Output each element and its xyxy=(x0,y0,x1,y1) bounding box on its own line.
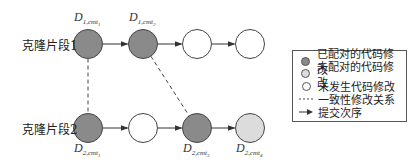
row-label-clone-2: 克隆片段2 xyxy=(22,120,78,137)
commit-order-arrows xyxy=(103,44,235,128)
node-label: D1,cmt1 xyxy=(74,10,101,28)
node-label: D1,cmt2 xyxy=(129,10,156,28)
commit-nodes xyxy=(74,30,265,143)
node-label: D2,cmt3 xyxy=(183,141,210,159)
consistency-link xyxy=(151,56,189,116)
paired-dot-icon xyxy=(301,57,310,66)
dashed-line-icon xyxy=(299,93,313,105)
node-label: D2,cmt4 xyxy=(236,141,263,159)
legend: 已配对的代码修改 未配对的代码修改 未发生代码修改 一致性修改关系 提交次序 xyxy=(292,50,407,122)
commit-node-paired xyxy=(129,30,158,59)
unpaired-dot-icon xyxy=(301,69,310,78)
row-label-clone-1: 克隆片段1 xyxy=(22,36,78,53)
commit-node-unpaired xyxy=(236,114,265,143)
commit-node-none xyxy=(236,30,265,59)
node-label: D2,cmt1 xyxy=(74,141,101,159)
legend-item-commit-order: 提交次序 xyxy=(299,105,400,118)
arrow-icon xyxy=(299,106,313,118)
commit-node-none xyxy=(183,30,212,59)
commit-node-none xyxy=(129,114,158,143)
empty-dot-icon xyxy=(302,82,311,91)
consistency-links xyxy=(88,56,189,116)
commit-node-paired xyxy=(183,114,212,143)
